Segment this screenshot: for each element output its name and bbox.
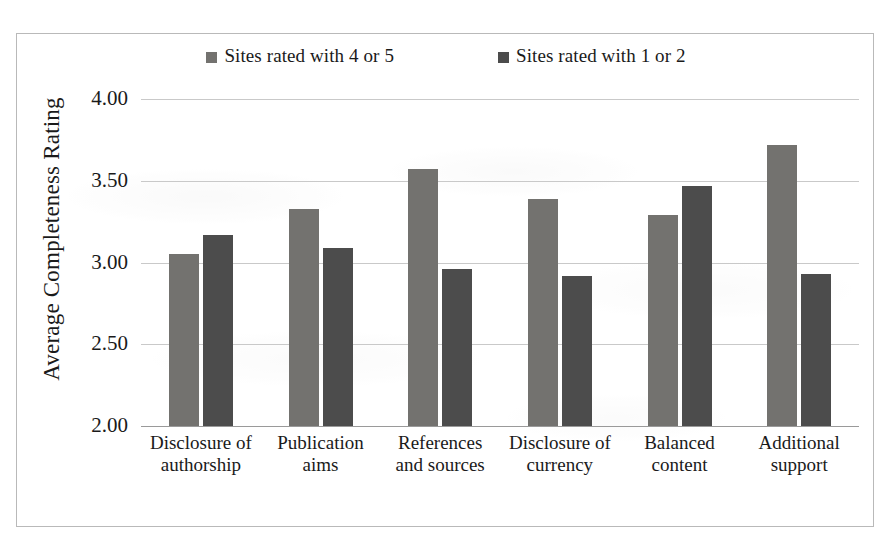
legend-item-sites-rated-1-or-2[interactable]: Sites rated with 1 or 2 [498, 45, 686, 67]
bar-group-balanced-content [620, 99, 740, 426]
figure-frame: Sites rated with 4 or 5 Sites rated with… [16, 33, 874, 527]
category-label-line: authorship [143, 454, 259, 476]
bar-sites-rated-4-or-5[interactable] [528, 199, 558, 426]
category-label-line: Disclosure of [502, 432, 618, 454]
category-label-disclosure-of-currency: Disclosure of currency [500, 432, 620, 477]
category-label-references-and-sources: References and sources [380, 432, 500, 477]
square-marker-icon [498, 52, 509, 63]
bar-sites-rated-4-or-5[interactable] [648, 215, 678, 426]
bar-sites-rated-1-or-2[interactable] [801, 274, 831, 426]
category-label-line: Publication [263, 432, 379, 454]
y-tick-label: 2.50 [91, 331, 128, 356]
bar-group-additional-support [739, 99, 859, 426]
bar-sites-rated-4-or-5[interactable] [289, 209, 319, 426]
legend-item-label: Sites rated with 4 or 5 [224, 45, 394, 67]
category-label-line: content [622, 454, 738, 476]
scan-ghost-text-top [40, 8, 130, 29]
category-label-line: and sources [382, 454, 498, 476]
bar-sites-rated-1-or-2[interactable] [682, 186, 712, 426]
chart-legend: Sites rated with 4 or 5 Sites rated with… [17, 45, 875, 67]
category-label-line: Additional [741, 432, 857, 454]
square-marker-icon [206, 52, 217, 63]
bar-sites-rated-1-or-2[interactable] [203, 235, 233, 426]
bar-sites-rated-1-or-2[interactable] [442, 269, 472, 426]
y-tick-label: 2.00 [91, 413, 128, 438]
category-label-disclosure-of-authorship: Disclosure of authorship [141, 432, 261, 477]
legend-item-label: Sites rated with 1 or 2 [516, 45, 686, 67]
category-label-publication-aims: Publication aims [261, 432, 381, 477]
scan-ghost-text-bottom [120, 536, 246, 557]
x-axis-category-labels: Disclosure of authorship Publication aim… [141, 432, 859, 477]
bar-sites-rated-4-or-5[interactable] [767, 145, 797, 426]
bar-groups [141, 99, 859, 426]
category-label-additional-support: Additional support [739, 432, 859, 477]
category-label-line: aims [263, 454, 379, 476]
category-label-line: References [382, 432, 498, 454]
y-tick-label: 3.00 [91, 250, 128, 275]
category-label-line: Balanced [622, 432, 738, 454]
category-label-balanced-content: Balanced content [620, 432, 740, 477]
category-label-line: support [741, 454, 857, 476]
y-tick-label: 4.00 [91, 86, 128, 111]
bar-sites-rated-1-or-2[interactable] [562, 276, 592, 426]
gridline-2-00-baseline: 2.00 [141, 426, 859, 427]
y-axis-title: Average Completeness Rating [39, 79, 65, 399]
bar-group-disclosure-of-authorship [141, 99, 261, 426]
category-label-line: currency [502, 454, 618, 476]
bar-group-references-and-sources [380, 99, 500, 426]
bar-sites-rated-4-or-5[interactable] [169, 254, 199, 426]
category-label-line: Disclosure of [143, 432, 259, 454]
legend-item-sites-rated-4-or-5[interactable]: Sites rated with 4 or 5 [206, 45, 394, 67]
bar-group-disclosure-of-currency [500, 99, 620, 426]
y-tick-label: 3.50 [91, 168, 128, 193]
bar-group-publication-aims [261, 99, 381, 426]
plot-area: 4.00 3.50 3.00 2.50 2.00 [141, 99, 859, 426]
bar-sites-rated-1-or-2[interactable] [323, 248, 353, 426]
bar-sites-rated-4-or-5[interactable] [408, 169, 438, 426]
